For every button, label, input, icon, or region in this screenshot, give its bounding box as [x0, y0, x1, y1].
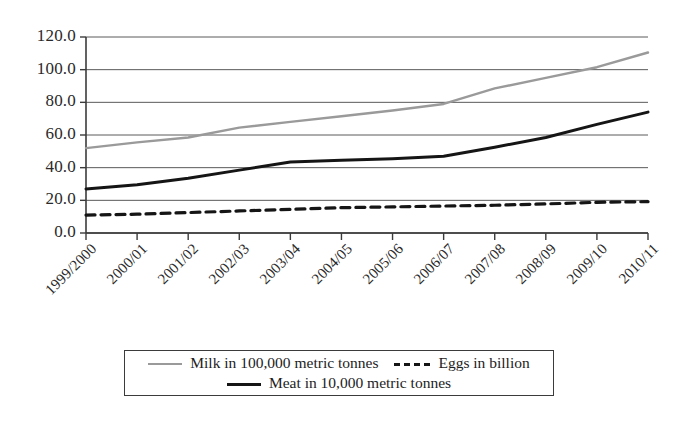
y-axis-ticks — [80, 37, 86, 233]
y-axis-tick-label: 20.0 — [10, 189, 76, 209]
y-axis-tick-label: 40.0 — [10, 157, 76, 177]
legend-label: Eggs in billion — [438, 354, 529, 372]
legend-label: Milk in 100,000 metric tonnes — [190, 354, 378, 372]
legend-swatch-icon — [394, 363, 430, 366]
legend-item[interactable]: Milk in 100,000 metric tonnes — [148, 354, 378, 372]
gridlines — [86, 37, 648, 233]
chart-container: 0.020.040.060.080.0100.0120.0 1999/20002… — [0, 0, 675, 430]
legend-row: Meat in 10,000 metric tonnes — [125, 374, 553, 392]
y-axis-tick-label: 80.0 — [10, 91, 76, 111]
y-axis-tick-label: 60.0 — [10, 124, 76, 144]
legend-swatch-icon — [227, 383, 261, 386]
legend-item[interactable]: Meat in 10,000 metric tonnes — [227, 374, 451, 392]
legend-label: Meat in 10,000 metric tonnes — [269, 374, 451, 392]
legend-item[interactable]: Eggs in billion — [394, 354, 529, 372]
y-axis-tick-label: 0.0 — [10, 222, 76, 242]
y-axis-tick-label: 120.0 — [10, 26, 76, 46]
series-line — [86, 112, 648, 189]
series-line — [86, 202, 648, 215]
chart-legend: Milk in 100,000 metric tonnesEggs in bil… — [124, 350, 554, 396]
data-series — [86, 53, 648, 216]
y-axis-tick-label: 100.0 — [10, 59, 76, 79]
legend-row: Milk in 100,000 metric tonnesEggs in bil… — [125, 354, 553, 372]
x-axis-ticks — [86, 233, 648, 240]
legend-swatch-icon — [148, 363, 182, 365]
